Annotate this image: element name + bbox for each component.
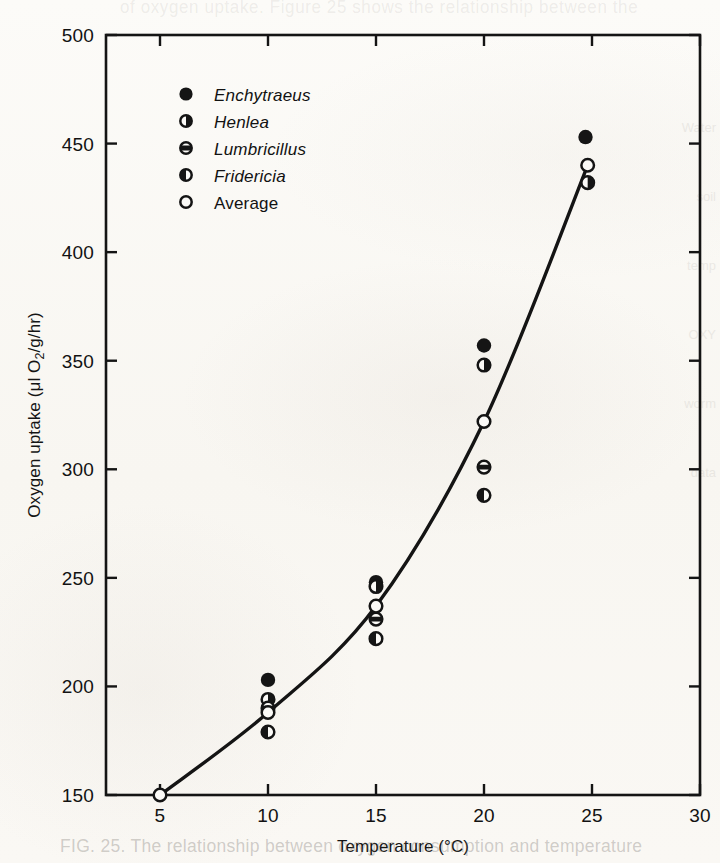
x-tick-labels: 51015202530 [155,805,711,826]
series-enchytraeus [261,130,593,687]
legend-item-henlea[interactable]: Henlea [180,113,269,132]
data-points [154,130,595,801]
x-tick-label: 20 [473,805,495,826]
scatter-plot: 15020025030035040045050051015202530Tempe… [0,0,720,863]
data-point-filled-circle [261,673,275,687]
legend-item-average[interactable]: Average [180,194,278,213]
y-axis-title: Oxygen uptake (μl O2/g/hr) [25,312,47,518]
data-point-open-circle [478,415,491,428]
data-point-left-half-filled-circle [369,632,382,645]
x-tick-label: 5 [155,805,166,826]
data-point-left-half-filled-circle [261,725,274,738]
x-tick-label: 10 [257,805,279,826]
data-point-band-filled-circle [477,461,490,474]
legend-item-enchytraeus[interactable]: Enchytraeus [179,86,311,105]
legend: EnchytraeusHenleaLumbricillusFridericiaA… [179,86,311,213]
data-point-right-half-filled-circle [581,176,594,189]
x-tick-label: 15 [365,805,387,826]
y-tick-label: 200 [62,676,94,697]
y-tick-label: 250 [62,568,94,589]
figure-caption-bleed: FIG. 25. The relationship between oxygen… [60,836,720,863]
data-point-band-filled-circle [180,142,192,154]
data-point-open-circle [180,196,191,207]
axis-ticks [106,35,700,795]
data-point-filled-circle [578,130,592,144]
data-point-left-half-filled-circle [180,169,192,181]
svg-text:Oxygen uptake (μl O2/g/hr): Oxygen uptake (μl O2/g/hr) [25,312,47,518]
data-point-right-half-filled-circle [180,115,192,127]
data-point-right-half-filled-circle [477,358,490,371]
y-tick-label: 450 [62,134,94,155]
average-trend-curve [160,165,588,795]
legend-item-lumbricillus[interactable]: Lumbricillus [180,140,306,159]
plot-frame [106,35,700,795]
x-tick-label: 30 [689,805,711,826]
figure-oxygen-uptake-vs-temperature: 15020025030035040045050051015202530Tempe… [0,0,720,863]
y-tick-label: 400 [62,242,94,263]
y-tick-label: 150 [62,785,94,806]
y-tick-label: 350 [62,351,94,372]
legend-label: Henlea [214,113,269,132]
data-point-open-circle [154,789,167,802]
data-point-open-circle [581,159,594,172]
series-average [154,159,594,801]
legend-item-fridericia[interactable]: Fridericia [180,167,286,186]
x-tick-label: 25 [581,805,603,826]
legend-label: Average [214,194,278,213]
y-tick-labels: 150200250300350400450500 [62,25,94,806]
y-tick-label: 500 [62,25,94,46]
data-point-left-half-filled-circle [477,489,490,502]
data-point-right-half-filled-circle [369,580,382,593]
data-point-filled-circle [477,338,491,352]
legend-label: Enchytraeus [214,86,311,105]
legend-label: Lumbricillus [214,140,306,159]
y-tick-label: 300 [62,459,94,480]
data-point-open-circle [262,706,275,719]
data-point-band-filled-circle [369,613,382,626]
legend-label: Fridericia [214,167,286,186]
data-point-open-circle [370,600,383,613]
data-point-filled-circle [179,87,192,100]
series-henlea [261,176,594,706]
